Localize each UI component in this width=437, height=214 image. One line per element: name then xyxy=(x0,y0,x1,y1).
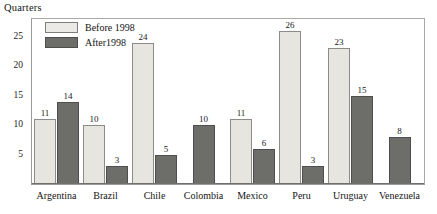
bar-value-label: 26 xyxy=(286,20,295,30)
bar-wrap: 15 xyxy=(351,19,373,184)
bar-value-label: 3 xyxy=(311,155,316,165)
bar[interactable] xyxy=(389,137,411,184)
bar-wrap: 10 xyxy=(193,19,215,184)
x-tick-label: Colombia xyxy=(179,190,228,202)
bar-wrap: 8 xyxy=(389,19,411,184)
bar-group: 8 xyxy=(375,19,424,184)
x-tick-label: Peru xyxy=(277,190,326,202)
chart-legend: Before 1998After1998 xyxy=(45,22,135,48)
bar-value-label: 11 xyxy=(237,108,246,118)
y-tick-label: 20 xyxy=(14,61,24,71)
x-axis-baseline xyxy=(32,183,424,184)
bar-group: 245 xyxy=(130,19,179,184)
bar-group: 263 xyxy=(277,19,326,184)
bar-chart: Quarters 510152025 111410324510116263231… xyxy=(0,0,437,214)
bar[interactable] xyxy=(132,43,154,184)
y-tick-label: 15 xyxy=(14,91,24,101)
bar-wrap: 5 xyxy=(155,19,177,184)
bar-value-label: 24 xyxy=(139,32,148,42)
bar-wrap: 26 xyxy=(279,19,301,184)
y-tick-label: 5 xyxy=(18,150,23,160)
bar-wrap: 3 xyxy=(302,19,324,184)
bar-wrap: 23 xyxy=(328,19,350,184)
bar[interactable] xyxy=(302,166,324,184)
y-axis: 510152025 xyxy=(0,18,31,186)
bar[interactable] xyxy=(253,149,275,184)
legend-item[interactable]: After1998 xyxy=(45,37,135,48)
x-tick-label: Venezuela xyxy=(375,190,424,202)
x-tick-label: Mexico xyxy=(228,190,277,202)
legend-swatch xyxy=(45,22,78,33)
bar-value-label: 23 xyxy=(335,37,344,47)
legend-swatch xyxy=(45,37,78,48)
bar[interactable] xyxy=(57,102,79,185)
x-axis-labels: ArgentinaBrazilChileColombiaMexicoPeruUr… xyxy=(32,190,424,202)
x-tick-label: Chile xyxy=(130,190,179,202)
bar[interactable] xyxy=(279,31,301,184)
bar[interactable] xyxy=(193,125,215,184)
x-tick-label: Uruguay xyxy=(326,190,375,202)
bar-value-label: 15 xyxy=(358,85,367,95)
bar[interactable] xyxy=(351,96,373,184)
bar-value-label: 10 xyxy=(199,114,208,124)
y-tick-label: 25 xyxy=(14,32,24,42)
bar-group: 2315 xyxy=(326,19,375,184)
legend-item[interactable]: Before 1998 xyxy=(45,22,135,33)
bar-wrap: 6 xyxy=(253,19,275,184)
legend-label: After1998 xyxy=(85,37,126,48)
legend-label: Before 1998 xyxy=(85,22,135,33)
y-axis-title: Quarters xyxy=(4,2,42,13)
bar-value-label: 11 xyxy=(41,108,50,118)
bar[interactable] xyxy=(83,125,105,184)
bar[interactable] xyxy=(155,155,177,184)
bar-wrap: 11 xyxy=(230,19,252,184)
bar-group: 10 xyxy=(179,19,228,184)
bar[interactable] xyxy=(328,48,350,184)
bar-value-label: 8 xyxy=(397,126,402,136)
bar[interactable] xyxy=(230,119,252,184)
bar-group: 116 xyxy=(228,19,277,184)
bar-value-label: 10 xyxy=(90,114,99,124)
x-tick-label: Brazil xyxy=(81,190,130,202)
bar-value-label: 14 xyxy=(64,91,73,101)
x-tick-label: Argentina xyxy=(32,190,81,202)
bar[interactable] xyxy=(34,119,56,184)
bar[interactable] xyxy=(106,166,128,184)
bar-value-label: 3 xyxy=(115,155,120,165)
y-tick-label: 10 xyxy=(14,120,24,130)
bar-wrap: 24 xyxy=(132,19,154,184)
bar-value-label: 5 xyxy=(164,144,169,154)
bar-value-label: 6 xyxy=(262,138,267,148)
